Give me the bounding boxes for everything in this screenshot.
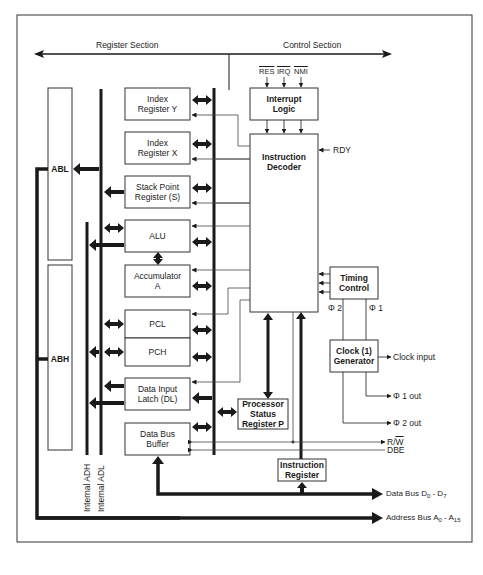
timing-control-label: TimingControl [330, 267, 378, 299]
dbe-label: DBE [387, 445, 404, 455]
nmi-signal-label: NMI [294, 67, 308, 77]
accumulator-label: AccumulatorA [125, 265, 190, 297]
pch-label: PCH [125, 338, 190, 366]
phi2-label: Φ 2 [328, 303, 342, 313]
rdy-label: RDY [333, 145, 351, 155]
databus-ir-arrow [297, 482, 307, 493]
phi1-label: Φ 1 [369, 303, 383, 313]
clock-input-label: Clock input [393, 352, 435, 362]
index-register-y-label: IndexRegister Y [125, 88, 190, 120]
phi2-out-label: Φ 2 out [393, 418, 421, 428]
pcl-label: PCL [125, 310, 190, 338]
control-lines [192, 115, 250, 382]
abh-label: ABH [48, 350, 72, 368]
processor-status-label: ProcessorStatusRegister P [238, 399, 288, 429]
index-register-x-label: IndexRegister X [125, 132, 190, 164]
interrupt-logic-label: InterruptLogic [250, 88, 318, 120]
alu-accumulator-arrow [153, 252, 163, 265]
phi1-out-label: Φ 1 out [393, 391, 421, 401]
stack-point-register-label: Stack PointRegister (S) [125, 176, 190, 208]
control-section-label: Control Section [283, 40, 341, 50]
ir-decoder-arrow [296, 312, 306, 459]
decoder-status-arrow [263, 313, 273, 399]
instruction-decoder-label: InstructionDecoder [250, 150, 318, 174]
data-bus-label: Data Bus D0 - D7 [386, 489, 446, 499]
res-signal-label: RES [259, 67, 274, 77]
register-section-label: Register Section [96, 40, 158, 50]
abl-label: ABL [48, 160, 72, 178]
data-input-latch-label: Data InputLatch (DL) [125, 378, 190, 410]
register-bus-arrows [192, 95, 212, 432]
irq-signal-label: IRQ [277, 67, 290, 77]
alu-label: ALU [125, 220, 190, 252]
instruction-register-label: InstructionRegister [278, 459, 326, 481]
status-bus-arrow [217, 407, 237, 417]
internal-adh-label: Internal ADH [82, 464, 92, 512]
address-bus-arrows [73, 163, 124, 409]
data-bus-buffer-label: Data BusBuffer [125, 423, 190, 455]
data-bus-path [152, 456, 383, 500]
section-arrow [34, 50, 392, 90]
clock-generator-label: Clock (1)Generator [330, 340, 378, 372]
internal-adl-label: Internal ADL [96, 465, 106, 512]
cpu-block-diagram: Register Section Control Section RES IRQ… [0, 0, 483, 575]
address-bus-label: Address Bus A0 - A15 [386, 513, 461, 523]
